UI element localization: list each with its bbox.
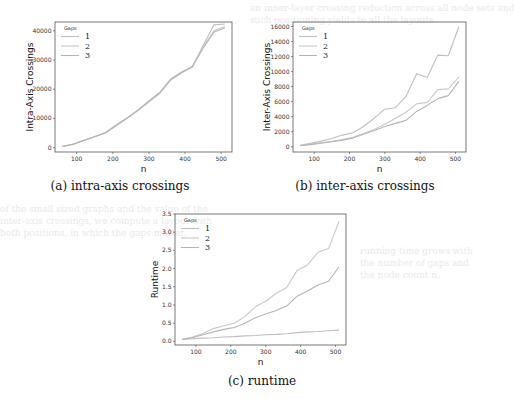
legend-label-2: 2 — [85, 42, 90, 51]
figure-caption: (b) inter-axis crossings — [295, 179, 434, 193]
x-tick-label: 400 — [179, 155, 191, 162]
x-tick-label: 100 — [190, 348, 202, 355]
legend-label-2: 2 — [323, 42, 328, 51]
x-tick-label: 200 — [107, 155, 119, 162]
x-tick-label: 500 — [215, 155, 227, 162]
legend-title: Gaps — [184, 217, 197, 224]
y-tick-label: 14000 — [270, 38, 289, 45]
y-tick-label: 1.5 — [162, 283, 172, 290]
y-tick-label: 10000 — [32, 114, 51, 121]
y-tick-label: 12000 — [270, 53, 289, 60]
legend-label-1: 1 — [205, 224, 210, 233]
y-tick-label: 0.0 — [162, 337, 172, 344]
x-tick-label: 300 — [260, 348, 272, 355]
y-tick-label: 3.0 — [162, 228, 172, 235]
x-tick-label: 400 — [414, 155, 426, 162]
legend-label-1: 1 — [323, 32, 328, 41]
y-tick-label: 20000 — [32, 85, 51, 92]
x-tick-label: 500 — [330, 348, 342, 355]
plot-frame — [293, 22, 466, 152]
figure-caption: (a) intra-axis crossings — [51, 179, 190, 193]
y-tick-label: 2.0 — [162, 265, 172, 272]
y-tick-label: 8000 — [274, 83, 289, 90]
y-tick-label: 16000 — [270, 23, 289, 30]
y-tick-label: 1.0 — [162, 301, 172, 308]
x-tick-label: 200 — [344, 155, 356, 162]
x-tick-label: 200 — [225, 348, 237, 355]
series-line-gaps-3 — [182, 267, 339, 340]
inter-axis-chart: 0200040006000800010000120001400016000100… — [262, 22, 466, 193]
legend-label-3: 3 — [323, 51, 328, 60]
figure-caption: (c) runtime — [228, 374, 296, 388]
y-tick-label: 30000 — [32, 56, 51, 63]
legend-title: Gaps — [302, 25, 315, 32]
legend-label-1: 1 — [85, 32, 90, 41]
series-line-gaps-1 — [182, 330, 339, 339]
plot-frame — [175, 214, 346, 345]
y-axis-label: Intra-Axis Crossings — [25, 42, 35, 131]
legend-title: Gaps — [64, 25, 77, 32]
y-tick-label: 0.5 — [162, 319, 172, 326]
legend-label-2: 2 — [205, 234, 210, 243]
x-tick-label: 300 — [143, 155, 155, 162]
legend: Gaps123 — [181, 217, 210, 252]
y-tick-label: 6000 — [274, 98, 289, 105]
legend-label-3: 3 — [205, 243, 210, 252]
x-axis-label: n — [141, 164, 147, 174]
y-tick-label: 2000 — [274, 128, 289, 135]
x-axis-label: n — [258, 357, 264, 367]
legend-label-3: 3 — [85, 51, 90, 60]
y-tick-label: 3.5 — [162, 210, 172, 217]
series-line-gaps-2 — [300, 77, 459, 146]
x-tick-label: 400 — [295, 348, 307, 355]
y-axis-label: Inter-Axis Crossings — [262, 42, 272, 131]
y-tick-label: 0 — [48, 144, 52, 151]
x-tick-label: 100 — [308, 155, 320, 162]
y-tick-label: 10000 — [270, 68, 289, 75]
x-axis-label: n — [377, 164, 383, 174]
legend: Gaps123 — [61, 25, 90, 60]
intra-axis-chart: 010000200003000040000100200300400500nInt… — [25, 22, 232, 193]
y-tick-label: 4000 — [274, 113, 289, 120]
y-tick-label: 2.5 — [162, 246, 172, 253]
y-axis-label: Runtime — [150, 260, 160, 298]
runtime-chart: 0.00.51.01.52.02.53.03.5100200300400500n… — [150, 210, 346, 388]
legend: Gaps123 — [299, 25, 328, 60]
x-tick-label: 500 — [450, 155, 462, 162]
x-tick-label: 100 — [71, 155, 83, 162]
x-tick-label: 300 — [379, 155, 391, 162]
y-tick-label: 0 — [286, 143, 290, 150]
y-tick-label: 40000 — [32, 27, 51, 34]
